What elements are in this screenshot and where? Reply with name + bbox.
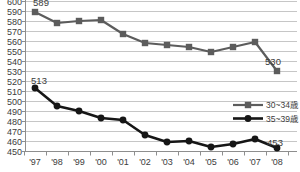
- y-axis-label: 480: [7, 117, 22, 127]
- data-point: [120, 31, 126, 37]
- legend-label: 35~39歳: [266, 114, 299, 124]
- point-label: 513: [31, 75, 47, 86]
- x-axis-label: '04: [183, 157, 195, 167]
- line-chart: 4504604704804905005105205305405505605705…: [0, 0, 300, 172]
- data-point: [164, 139, 171, 146]
- y-axis-label: 460: [7, 137, 22, 147]
- y-axis-labels: 4504604704804905005105205305405505605705…: [7, 0, 22, 157]
- data-point: [208, 49, 214, 55]
- y-axis-label: 540: [7, 57, 22, 67]
- x-axis-label: '99: [73, 157, 85, 167]
- point-label: 453: [267, 137, 283, 148]
- y-axis-label: 530: [7, 67, 22, 77]
- y-axis-label: 470: [7, 127, 22, 137]
- data-point: [230, 44, 236, 50]
- data-point: [32, 9, 38, 15]
- x-axis-label: '06: [227, 157, 239, 167]
- y-axis-label: 550: [7, 47, 22, 57]
- data-point: [230, 141, 237, 148]
- data-point: [76, 108, 83, 115]
- x-axis-labels: '97'98'99'00'01'02'03'04'05'06'07'08: [29, 157, 283, 167]
- x-axis-label: '03: [161, 157, 173, 167]
- y-axis-label: 490: [7, 107, 22, 117]
- data-point: [120, 117, 127, 124]
- data-point: [252, 39, 258, 45]
- data-point: [54, 103, 61, 110]
- y-axis-label: 450: [7, 147, 22, 157]
- chart-container: 4504604704804905005105205305405505605705…: [0, 0, 300, 172]
- data-point: [142, 40, 148, 46]
- data-point: [76, 18, 82, 24]
- y-axis-label: 560: [7, 37, 22, 47]
- legend-square-marker-icon: [245, 102, 251, 108]
- x-axis-label: '08: [271, 157, 283, 167]
- y-axis-label: 600: [7, 0, 22, 7]
- x-axis-label: '05: [205, 157, 217, 167]
- data-point: [208, 144, 215, 151]
- data-point: [142, 132, 149, 139]
- x-axis-label: '00: [95, 157, 107, 167]
- legend-label: 30~34歳: [266, 100, 299, 110]
- data-point: [98, 17, 104, 23]
- legend-circle-marker-icon: [245, 115, 252, 122]
- y-axis-label: 510: [7, 87, 22, 97]
- data-point: [98, 115, 105, 122]
- x-axis-label: '07: [249, 157, 261, 167]
- data-point: [186, 44, 192, 50]
- x-axis-label: '02: [139, 157, 151, 167]
- data-point: [252, 136, 259, 143]
- data-point: [164, 42, 170, 48]
- y-axis-label: 500: [7, 97, 22, 107]
- y-axis-label: 520: [7, 77, 22, 87]
- point-label: 589: [33, 0, 49, 8]
- point-label: 530: [265, 56, 281, 67]
- data-point: [54, 20, 60, 26]
- y-axis-label: 590: [7, 7, 22, 17]
- data-point: [274, 68, 280, 74]
- y-axis-label: 580: [7, 17, 22, 27]
- data-point: [186, 138, 193, 145]
- gridlines: [22, 2, 297, 152]
- x-axis-label: '98: [51, 157, 63, 167]
- x-axis-label: '97: [29, 157, 41, 167]
- x-axis-label: '01: [117, 157, 129, 167]
- legend-item: 35~39歳: [233, 114, 299, 124]
- y-axis-label: 570: [7, 27, 22, 37]
